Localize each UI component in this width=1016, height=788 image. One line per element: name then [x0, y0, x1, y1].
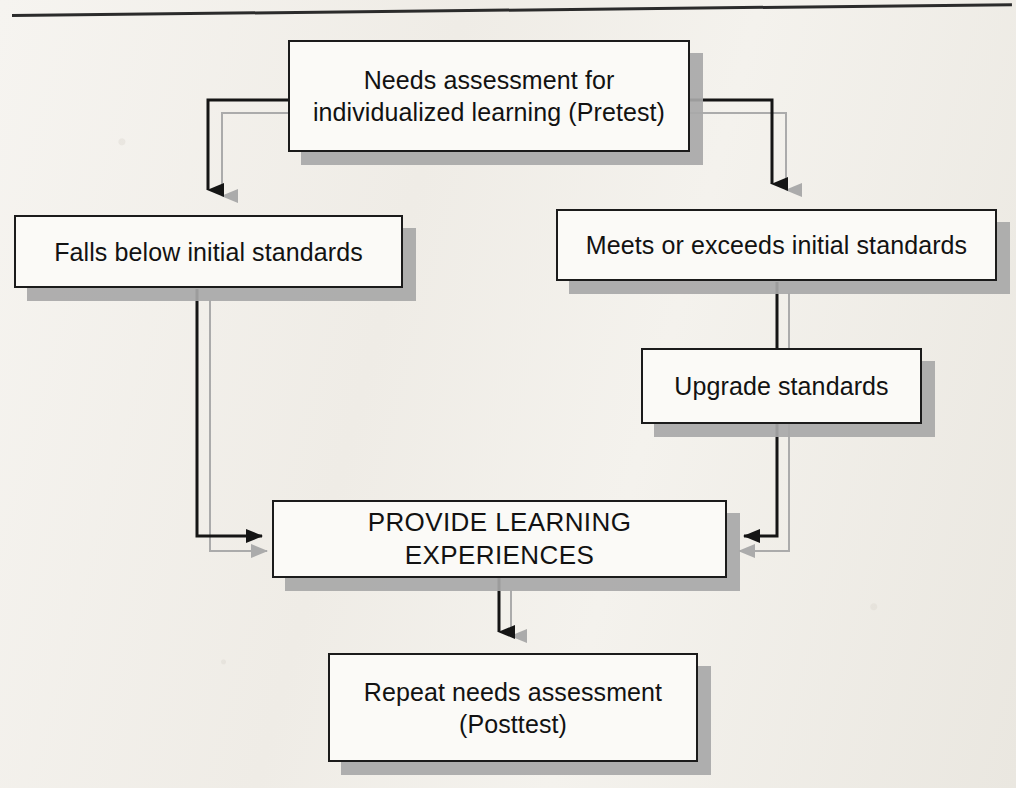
edge-falls-to-provide — [197, 289, 262, 536]
node-pretest[interactable]: Needs assessment for individualized lear… — [288, 40, 690, 152]
node-falls-below[interactable]: Falls below initial standards — [14, 215, 403, 288]
node-upgrade-standards-label: Upgrade standards — [664, 370, 898, 402]
node-provide-learning-experiences[interactable]: PROVIDE LEARNING EXPERIENCES — [272, 500, 727, 578]
node-meets-exceeds[interactable]: Meets or exceeds initial standards — [556, 209, 997, 281]
edge-upgrade-to-provide — [744, 424, 777, 536]
node-pretest-label: Needs assessment for individualized lear… — [303, 64, 675, 128]
node-provide-learning-experiences-label: PROVIDE LEARNING EXPERIENCES — [274, 506, 725, 573]
node-posttest[interactable]: Repeat needs assessment (Posttest) — [328, 653, 698, 762]
node-meets-exceeds-label: Meets or exceeds initial standards — [576, 229, 977, 261]
node-upgrade-standards[interactable]: Upgrade standards — [641, 348, 922, 424]
ghost-falls-to-provide — [210, 300, 267, 551]
node-posttest-label: Repeat needs assessment (Posttest) — [354, 676, 672, 740]
flowchart-figure: Needs assessment for individualized lear… — [0, 0, 1016, 788]
ghost-pretest-to-falls — [222, 113, 288, 196]
node-falls-below-label: Falls below initial standards — [44, 236, 373, 268]
